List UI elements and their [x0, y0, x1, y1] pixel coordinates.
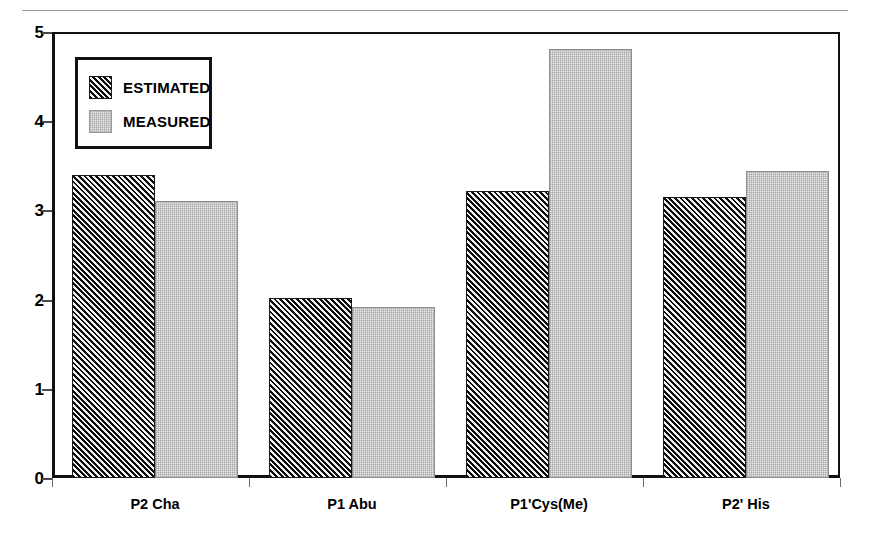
legend-label-estimated: ESTIMATED	[123, 79, 210, 96]
y-axis-tick	[42, 121, 52, 123]
x-axis-category-label: P1'Cys(Me)	[510, 496, 588, 512]
x-axis-category-label: P1 Abu	[327, 496, 376, 512]
bar-estimated	[269, 298, 352, 478]
y-axis-tick-label: 4	[4, 113, 44, 130]
x-axis-category-label: P2' His	[722, 496, 770, 512]
legend-item-estimated: ESTIMATED	[89, 70, 209, 104]
bar-measured	[549, 49, 632, 478]
hatched-diagonal-swatch-icon	[89, 76, 112, 99]
bar-measured	[746, 171, 829, 478]
top-divider-rule	[22, 10, 848, 11]
legend-label-measured: MEASURED	[123, 113, 210, 130]
y-axis-tick	[42, 389, 52, 391]
x-axis-tick	[249, 478, 250, 487]
y-axis-tick-label: 5	[4, 24, 44, 41]
bar-chart-figure: 012345 P2 ChaP1 AbuP1'Cys(Me)P2' His EST…	[0, 0, 870, 539]
light-gray-swatch-icon	[89, 110, 112, 133]
bar-measured	[352, 307, 435, 478]
bar-estimated	[466, 191, 549, 478]
x-axis-tick	[840, 478, 841, 487]
y-axis-tick-label: 1	[4, 380, 44, 397]
y-axis-tick	[42, 478, 52, 480]
x-axis-category-label: P2 Cha	[130, 496, 179, 512]
x-axis: P2 ChaP1 AbuP1'Cys(Me)P2' His	[52, 496, 840, 526]
legend-item-measured: MEASURED	[89, 104, 209, 138]
chart-legend: ESTIMATED MEASURED	[75, 57, 212, 149]
y-axis-tick-label: 2	[4, 291, 44, 308]
y-axis-tick-label: 0	[4, 470, 44, 487]
x-axis-tick	[52, 478, 53, 487]
y-axis-tick	[42, 32, 52, 34]
y-axis-tick	[42, 300, 52, 302]
y-axis-tick-label: 3	[4, 202, 44, 219]
y-axis: 012345	[0, 32, 44, 478]
bar-estimated	[663, 197, 746, 478]
x-axis-tick	[643, 478, 644, 487]
y-axis-tick	[42, 210, 52, 212]
x-axis-tick	[446, 478, 447, 487]
bar-estimated	[72, 175, 155, 478]
bar-measured	[155, 201, 238, 478]
